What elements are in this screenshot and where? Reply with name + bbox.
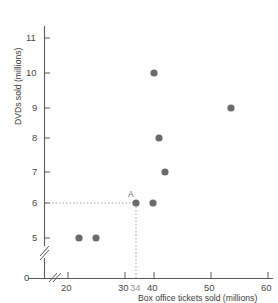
data-point bbox=[227, 104, 234, 111]
y-axis-ticks bbox=[45, 38, 51, 238]
x-axis-ticks bbox=[68, 272, 268, 279]
data-points bbox=[75, 69, 234, 241]
data-point bbox=[161, 168, 168, 175]
data-point bbox=[155, 134, 162, 141]
x-axis-break-icon bbox=[49, 273, 61, 282]
data-point bbox=[149, 199, 156, 206]
point-a-label: A bbox=[128, 190, 134, 199]
y-tick-label-7: 7 bbox=[32, 167, 37, 177]
x-axis-title: Box office tickets sold (millions) bbox=[138, 294, 257, 303]
x-tick-label-20: 20 bbox=[61, 283, 72, 293]
y-tick-label-10: 10 bbox=[26, 68, 37, 78]
y-tick-label-6: 6 bbox=[32, 198, 37, 208]
x-tick-label-30: 30 bbox=[118, 283, 129, 293]
y-tick-label-9: 9 bbox=[32, 103, 37, 113]
y-tick-label-11: 11 bbox=[26, 33, 36, 43]
data-point bbox=[75, 234, 82, 241]
point-a-guide-lines bbox=[45, 203, 136, 278]
x-tick-label-40: 40 bbox=[147, 283, 158, 293]
y-axis-title: DVDs sold (millions) bbox=[14, 48, 23, 125]
data-point bbox=[150, 69, 157, 76]
y-tick-label-5: 5 bbox=[32, 233, 37, 243]
data-point-a bbox=[132, 199, 139, 206]
y-tick-label-8: 8 bbox=[32, 133, 37, 143]
y-axis-break-icon bbox=[40, 246, 49, 260]
x-tick-label-34: 34 bbox=[130, 283, 141, 293]
y-tick-label-0: 0 bbox=[24, 273, 29, 283]
data-point bbox=[92, 234, 99, 241]
x-tick-label-50: 50 bbox=[204, 283, 215, 293]
x-tick-label-60: 60 bbox=[261, 283, 272, 293]
